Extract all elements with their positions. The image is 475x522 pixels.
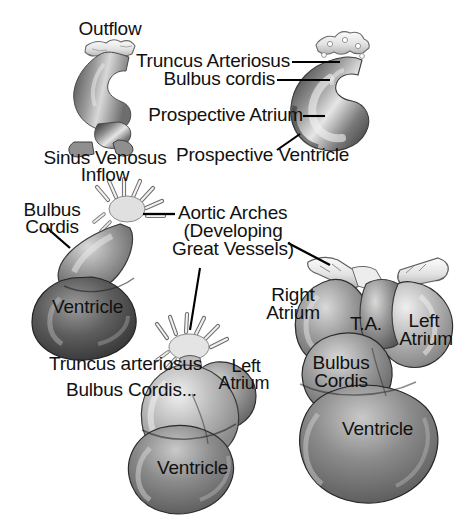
- label-aortic-arches-line3: Great Vessels): [166, 239, 300, 258]
- label-truncus-arteriosus-stage4: Truncus arteriosus: [49, 354, 202, 373]
- label-bulbus-cordis-stage5-line2: Cordis: [303, 371, 379, 390]
- label-left-atrium-stage4-line2: Atrium: [212, 374, 276, 392]
- label-right-atrium-line2: Atrium: [253, 303, 333, 322]
- stage2-truncus-vessels: [316, 32, 369, 59]
- figure-canvas: Outflow Sinus Venosus Inflow Truncus Art…: [0, 0, 475, 522]
- label-bulbus-cordis-stage3-line2: Cordis: [4, 217, 100, 236]
- label-bulbus-cordis-stage2: Bulbus cordis: [120, 69, 275, 88]
- label-ventricle-stage5: Ventricle: [342, 419, 413, 438]
- label-prospective-atrium: Prospective Atrium: [120, 105, 303, 124]
- label-sinus-venosus-line2: Inflow: [40, 165, 170, 184]
- label-truncus-arteriosus-abbrev: T.A.: [350, 314, 382, 333]
- leader-aortic-arches-down: [190, 268, 200, 330]
- label-ventricle-stage4: Ventricle: [157, 458, 228, 477]
- label-bulbus-cordis-stage4: Bulbus Cordis...: [66, 380, 197, 399]
- label-left-atrium-stage5-line2: Atrium: [390, 329, 462, 348]
- stage4-leader-lines: [190, 268, 200, 330]
- label-ventricle-stage3: Ventricle: [52, 297, 123, 316]
- stage4-chambered-heart-art: [128, 314, 256, 514]
- label-prospective-ventricle: Prospective Ventricle: [176, 145, 349, 164]
- label-outflow: Outflow: [55, 19, 165, 38]
- stage2-looping-heart-art: [291, 32, 369, 151]
